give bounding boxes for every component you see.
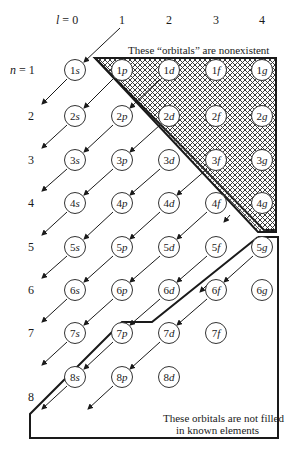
- n-axis-label-7: 7: [28, 327, 34, 339]
- l-axis-label-3: 3: [213, 14, 219, 26]
- orbital-l: s: [76, 110, 80, 122]
- orbital-l: d: [169, 327, 175, 339]
- orbital-5g: 5g: [251, 236, 273, 258]
- orbital-6g: 6g: [251, 279, 273, 301]
- orbital-8s: 8s: [64, 366, 86, 388]
- orbital-6d: 6d: [158, 279, 180, 301]
- orbital-l: d: [169, 241, 175, 253]
- orbital-l: s: [76, 371, 80, 383]
- orbital-6f: 6f: [205, 279, 227, 301]
- orbital-7s: 7s: [64, 322, 86, 344]
- orbital-3g: 3g: [251, 149, 273, 171]
- orbital-l: g: [262, 197, 268, 209]
- orbital-l: f: [217, 327, 220, 339]
- orbital-7d: 7d: [158, 322, 180, 344]
- orbital-l: p: [122, 154, 128, 166]
- orbital-5p: 5p: [111, 236, 133, 258]
- orbital-6p: 6p: [111, 279, 133, 301]
- orbital-1g: 1g: [251, 59, 273, 81]
- l-axis-label-2: 2: [166, 14, 172, 26]
- orbital-3p: 3p: [111, 149, 133, 171]
- orbital-l: s: [76, 284, 80, 296]
- orbital-4d: 4d: [158, 192, 180, 214]
- orbital-l: s: [76, 64, 80, 76]
- orbital-7p: 7p: [111, 322, 133, 344]
- unfilled-note-line2: in known elements: [176, 424, 259, 436]
- orbital-6s: 6s: [64, 279, 86, 301]
- n-axis-label-2: 2: [28, 110, 34, 122]
- orbital-7f: 7f: [205, 322, 227, 344]
- orbital-l: f: [217, 64, 220, 76]
- orbital-l: p: [122, 284, 128, 296]
- orbital-l: p: [122, 110, 128, 122]
- orbital-1f: 1f: [205, 59, 227, 81]
- orbital-l: g: [262, 154, 268, 166]
- orbital-l: d: [169, 154, 175, 166]
- unfilled-note-line1: These orbitals are not filled: [163, 412, 284, 424]
- orbital-2g: 2g: [251, 105, 273, 127]
- orbital-2f: 2f: [205, 105, 227, 127]
- orbital-l: f: [217, 154, 220, 166]
- orbital-l: f: [217, 197, 220, 209]
- orbital-4s: 4s: [64, 192, 86, 214]
- orbital-l: p: [122, 64, 128, 76]
- orbital-5f: 5f: [205, 236, 227, 258]
- nonexistent-note: These “orbitals” are nonexistent: [128, 44, 269, 56]
- l-axis-label-1: 1: [119, 14, 125, 26]
- orbital-5d: 5d: [158, 236, 180, 258]
- orbital-l: s: [76, 241, 80, 253]
- orbital-l: g: [262, 284, 268, 296]
- n-axis-label-4: 4: [28, 197, 34, 209]
- n-axis-label-8: 8: [28, 391, 34, 403]
- orbital-8d: 8d: [158, 366, 180, 388]
- orbital-l: d: [169, 284, 175, 296]
- orbital-3s: 3s: [64, 149, 86, 171]
- orbital-3d: 3d: [158, 149, 180, 171]
- orbital-l: g: [262, 110, 268, 122]
- orbital-2p: 2p: [111, 105, 133, 127]
- n-axis-label-5: 5: [28, 241, 34, 253]
- orbital-3f: 3f: [205, 149, 227, 171]
- n-axis-label-1: n = 1: [10, 64, 35, 76]
- orbital-1s: 1s: [64, 59, 86, 81]
- orbital-l: p: [122, 241, 128, 253]
- orbital-l: d: [169, 110, 175, 122]
- l-axis-label-4: 4: [259, 14, 265, 26]
- orbital-5s: 5s: [64, 236, 86, 258]
- orbital-l: g: [262, 64, 268, 76]
- orbital-l: d: [169, 197, 175, 209]
- orbital-l: g: [262, 241, 268, 253]
- orbital-l: p: [122, 197, 128, 209]
- orbital-l: d: [169, 371, 175, 383]
- orbital-l: f: [217, 241, 220, 253]
- l-axis-label-0: l = 0: [56, 14, 78, 26]
- n-axis-label-6: 6: [28, 284, 34, 296]
- orbital-4f: 4f: [205, 192, 227, 214]
- orbital-2s: 2s: [64, 105, 86, 127]
- orbital-l: f: [217, 284, 220, 296]
- orbital-l: f: [217, 110, 220, 122]
- orbital-1d: 1d: [158, 59, 180, 81]
- orbital-4g: 4g: [251, 192, 273, 214]
- orbital-l: s: [76, 197, 80, 209]
- n-axis-label-3: 3: [28, 154, 34, 166]
- orbital-l: p: [122, 327, 128, 339]
- orbital-l: s: [76, 327, 80, 339]
- orbital-8p: 8p: [111, 366, 133, 388]
- orbital-4p: 4p: [111, 192, 133, 214]
- orbital-l: p: [122, 371, 128, 383]
- orbital-l: d: [169, 64, 175, 76]
- orbital-2d: 2d: [158, 105, 180, 127]
- orbital-l: s: [76, 154, 80, 166]
- orbital-1p: 1p: [111, 59, 133, 81]
